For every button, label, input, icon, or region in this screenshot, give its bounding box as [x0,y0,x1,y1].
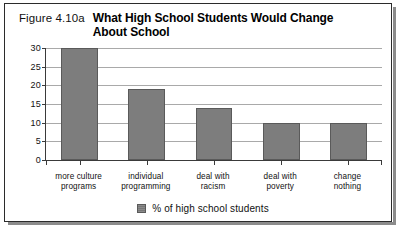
x-axis-category-label: more cultureprograms [45,172,112,191]
y-axis-labels: 051015202530 [19,48,41,160]
chart-title: What High School Students Would Change A… [93,12,355,39]
bar-slot [46,48,113,160]
frame-shadow-right [393,7,396,225]
y-axis-tick-mark [42,141,46,142]
x-axis-category-label-line: poverty [247,182,314,192]
x-axis-category-label-line: deal with [179,172,246,182]
chart-legend: % of high school students [5,203,400,214]
x-axis-tick-mark [281,161,282,165]
x-axis-tick-right-edge [381,161,382,165]
y-axis-tick-mark [42,123,46,124]
bar[interactable] [330,123,367,160]
x-axis-category-label-line: deal with [247,172,314,182]
y-axis-tick-label: 15 [31,99,41,109]
bar-slot [113,48,180,160]
x-axis-category-label-line: programs [45,182,112,192]
x-axis-category-label: deal withpoverty [247,172,314,191]
x-axis-tick-mark [147,161,148,165]
y-axis-tick-label: 5 [36,136,41,146]
y-axis-tick-label: 30 [31,43,41,53]
plot-wrapper: 051015202530 [19,48,381,170]
x-axis-category-label-line: programming [112,182,179,192]
x-axis-category-label: deal withracism [179,172,246,191]
x-axis-category-label-line: nothing [314,182,381,192]
y-axis-tick-label: 25 [31,62,41,72]
x-axis-category-label-line: more culture [45,172,112,182]
y-axis-tick-mark [42,85,46,86]
y-axis-tick-label: 20 [31,80,41,90]
legend-swatch-icon [137,204,146,213]
legend-label: % of high school students [152,203,268,214]
figure-frame: Figure 4.10a What High School Students W… [4,3,392,222]
x-axis-tick-left-edge [46,161,47,165]
y-axis-tick-mark [42,67,46,68]
x-axis-tick-mark [80,161,81,165]
y-axis-tick-mark [42,48,46,49]
x-axis-tick-mark [348,161,349,165]
frame-shadow-bottom [8,222,396,225]
bar[interactable] [196,108,233,160]
bar[interactable] [263,123,300,160]
bar-slot [248,48,315,160]
x-axis-category-label: individualprogramming [112,172,179,191]
y-axis-tick-mark [42,160,46,161]
y-axis-tick-label: 10 [31,118,41,128]
x-axis-category-label-line: racism [179,182,246,192]
bar-slot [315,48,382,160]
y-axis-tick-label: 0 [36,155,41,165]
bar[interactable] [128,89,165,160]
bar-slot [180,48,247,160]
figure-number-label: Figure 4.10a [19,12,85,24]
x-axis-tick-mark [214,161,215,165]
y-axis-tick-mark [42,104,46,105]
x-axis-category-label-line: individual [112,172,179,182]
bars-layer [46,48,382,160]
bar[interactable] [61,48,98,160]
x-axis-category-label-line: change [314,172,381,182]
figure-title-block: Figure 4.10a What High School Students W… [19,12,379,39]
plot-area [45,48,382,161]
x-axis-category-label: changenothing [314,172,381,191]
category-labels: more cultureprogramsindividualprogrammin… [45,172,381,191]
